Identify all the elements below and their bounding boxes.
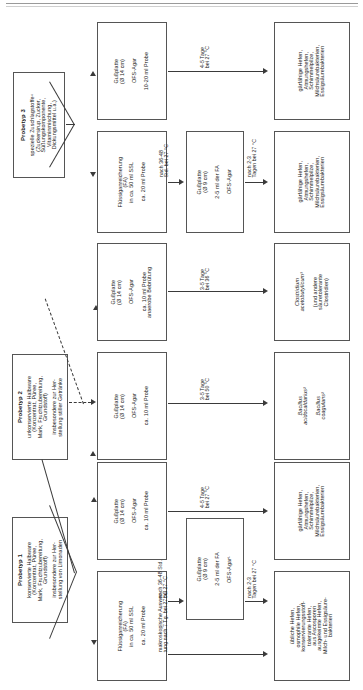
p3-result-bottom-line-5: Essigsäurebakterien <box>320 157 325 208</box>
p1-fa-line-3: in ca. 50 ml SSL <box>129 606 134 647</box>
probetyp-2-line-6: stellung stiller Getränke <box>58 378 63 437</box>
probetyp-3-box: Probetyp 3 spezielle Zuschlagstoffe⁴ (Zu… <box>13 72 65 178</box>
p2-aerob-line-3: OFS-Agar <box>132 393 137 418</box>
probetyp-2-heading: Probetyp 2 <box>17 391 23 423</box>
p2-dashed-link <box>69 402 91 403</box>
p3-fa-to-gp-arrowhead <box>179 179 184 185</box>
p1-result-bottom-box: übliche Hefen, osmophile Hefen, konservi… <box>274 571 350 681</box>
p2-aerob-arrowhead <box>263 400 268 406</box>
p1-gussplatte-9-line-2: (Ø 9 cm) <box>203 558 208 580</box>
page-rule-top-secondary <box>6 6 358 7</box>
page-rule-top <box>6 3 358 4</box>
probetyp-3-heading: Probetyp 3 <box>20 109 26 141</box>
p2-aerob-arrow-line <box>168 403 264 404</box>
p3-gp-to-result-label: nach 2-3 Tagen bei 27 °C <box>247 131 257 177</box>
p3-result-bottom-box: gärfähige Hefen, Atmungshefen, Schimmelp… <box>274 131 350 233</box>
p3-fa-to-gp-label-2: Std. bei 27 °C <box>164 144 169 177</box>
p2-anaerob-arrow-label: 3-5 Tage bei 36 °C <box>200 250 210 290</box>
p2-anaerob-line-5: anaerobe Bebrütung <box>147 267 152 318</box>
p2-aerob-arrow-label-2: bei 50 °C <box>205 378 210 400</box>
p3-gp-to-result-line <box>245 182 264 183</box>
p1-fa-to-gp-arrowhead <box>179 598 184 604</box>
p3-fa-to-gp-label: nach 36-48 Std. bei 27 °C <box>159 131 169 177</box>
p1-top-arrowhead <box>263 508 268 514</box>
p1-result-top-box: gärfähige Hefen, Atmungshefen, Schimmelp… <box>274 462 350 560</box>
p1-makro-label-2: tung nach 7 Tg. bei 27 °C <box>163 591 168 652</box>
p1-fa-line-4: ca. 20 ml Probe <box>141 606 146 645</box>
p2-anaerob-arrow-line <box>168 291 264 292</box>
probetyp-1-line-4: Grundstoff) <box>43 556 48 584</box>
p2-result-aerob-box: Bacillus acidocaldarius² Bacillus coagul… <box>274 352 350 460</box>
p3-gussplatte-9-box: Gußplatte (Ø 9 cm) 2-5 ml der FA OFS-Aga… <box>186 131 244 233</box>
p2-aerob-line-4: ca. 10 ml Probe <box>144 386 149 425</box>
p3-gp-to-result-label-2: Tagen bei 27 °C <box>252 139 257 177</box>
p2-aerob-arrow-label: 3-5 Tage bei 50 °C <box>200 360 210 400</box>
p1-gp-to-result-arrowhead <box>263 598 268 604</box>
p1-gussplatte-14-line-2: (Ø 14 cm) <box>120 499 125 524</box>
p3-top-arrow-label: 4-5 Tage bei 27 °C <box>200 28 210 68</box>
probetyp-1-line-6: stellung von Limonaden <box>58 540 63 599</box>
p2-anaerob-box: Gußplatte (Ø 14 cm) OFS-Agar ca. 10 ml P… <box>97 243 167 341</box>
probetyp-3-line-5: Dickungsmittel u.a.) <box>52 100 57 149</box>
p3-result-top-line-5: Essigsäurebakterien <box>320 46 325 97</box>
p2-dashed-link-arrowhead <box>91 399 96 405</box>
p1-makro-label: makroskopische Auswer- tung nach 7 Tg. b… <box>158 604 168 652</box>
p2-result-anaerob-line-2: acetobutylicum³ <box>300 272 305 311</box>
p1-gussplatte-9-line-4: OFS-Agar¹ <box>227 556 232 583</box>
p3-gussplatte-14-line-2: (Ø 14 cm) <box>120 59 125 84</box>
p1-result-top-line-5: Essigsäurebakterien <box>320 486 325 537</box>
flowchart-canvas: Probetyp 3 spezielle Zuschlagstoffe⁴ (Zu… <box>0 0 363 690</box>
p2-anaerob-arrow-label-2: bei 36 °C <box>205 268 210 290</box>
p2-aerob-box: Gußplatte (Ø 14 cm) OFS-Agar ca. 10 ml P… <box>97 352 167 460</box>
p3-gussplatte-9-line-4: OFS-Agar <box>227 169 232 194</box>
p1-top-arrow-label: 4-5 Tage bei 27 °C <box>200 468 210 508</box>
p1-top-arrow-label-2: bei 27 °C <box>205 486 210 508</box>
p1-result-bottom-line-8: bakterien <box>328 614 333 637</box>
p3-top-arrowhead <box>263 68 268 74</box>
p1-makro-arrowhead <box>263 651 268 657</box>
p3-gp-to-result-arrowhead <box>263 179 268 185</box>
p1-gp-to-result-label-2: Tagen bei 27 °C <box>252 560 257 598</box>
p2-anaerob-arrowhead <box>263 288 268 294</box>
p3-fa-line-3: in ca. 50 ml SSL <box>129 162 134 203</box>
p1-gussplatte-9-box: Gußplatte (Ø 9 cm) 2-5 ml der FA OFS-Aga… <box>186 518 244 620</box>
p3-branch-down-arrowhead <box>90 172 96 177</box>
p3-gussplatte-14-line-4: 10-20 ml Probe <box>144 52 149 90</box>
p1-gp-to-result-label: nach 2-3 Tagen bei 27 °C <box>247 552 257 598</box>
p1-makro-arrow-line <box>168 654 264 655</box>
p3-top-arrow-line <box>168 71 264 72</box>
p1-top-arrow-line <box>168 511 264 512</box>
p2-result-anaerob-box: Clostridium acetobutylicum³ (und andere … <box>274 243 350 341</box>
p2-aerob-line-2: (Ø 14 cm) <box>120 394 125 419</box>
p3-gussplatte-14-line-3: OFS-Agar <box>132 58 137 83</box>
p3-fa-box: Flüssiganreicherung (FA) in ca. 50 ml SS… <box>97 131 167 233</box>
probetyp-1-heading: Probetyp 1 <box>17 554 23 586</box>
p3-result-top-box: gärfähige Hefen, Atmungshefen, Schimmelp… <box>274 22 350 120</box>
p3-branch-up-arrowhead <box>90 71 96 76</box>
p2-anaerob-line-3: OFS-Agar <box>129 279 134 304</box>
probetyp-2-line-4: Grundstoff) <box>43 393 48 421</box>
p1-gussplatte-14-line-3: OFS-Agar <box>132 498 137 523</box>
p2-result-anaerob-line-5: Clostridien) <box>324 278 329 306</box>
p2-result-aerob-line-4: coagulans² <box>321 392 326 419</box>
p2-anaerob-line-2: (Ø 14 cm) <box>117 280 122 305</box>
p1-gussplatte-14-box: Gußplatte (Ø 14 cm) OFS-Agar ca. 10 ml P… <box>97 462 167 560</box>
p3-gussplatte-14-box: Gußplatte (Ø 14 cm) OFS-Agar 10-20 ml Pr… <box>97 22 167 120</box>
p3-gussplatte-9-line-3: 2-5 ml der FA <box>215 165 220 199</box>
p1-gp-to-result-line <box>245 601 264 602</box>
p1-gussplatte-9-line-3: 2-5 ml der FA <box>215 552 220 586</box>
p3-gussplatte-9-line-2: (Ø 9 cm) <box>203 171 208 193</box>
p3-fa-line-4: ca. 20 ml Probe <box>141 162 146 201</box>
p2-result-aerob-line-2: acidocaldarius² <box>303 387 308 425</box>
p1-branch-long-up-arrowhead <box>90 451 96 456</box>
p1-gussplatte-14-line-4: ca. 10 ml Probe <box>144 491 149 530</box>
p3-top-arrow-label-2: bei 27 °C <box>205 46 210 68</box>
probetyp-2-box: Probetyp 2 unkonservierte Halbware (Konz… <box>12 354 68 460</box>
